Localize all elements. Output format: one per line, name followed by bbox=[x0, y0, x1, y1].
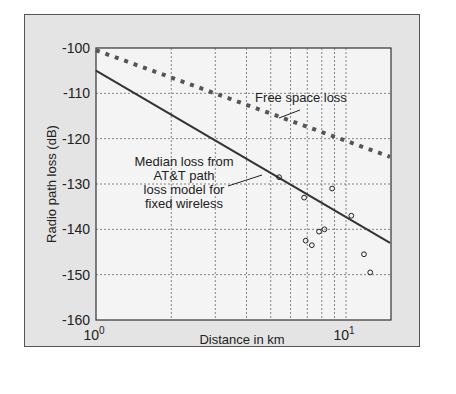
y-tick-label: -130 bbox=[62, 176, 90, 192]
y-tick-label: -100 bbox=[62, 40, 90, 56]
annotation-median-1: Median loss from bbox=[135, 154, 234, 169]
annotation-median-3: loss model for bbox=[144, 182, 226, 197]
annotation-median-2: AT&T path bbox=[154, 168, 215, 183]
y-tick-label: -150 bbox=[62, 267, 90, 283]
y-tick-label: -160 bbox=[62, 312, 90, 328]
chart: -100-110-120-130-140-150-160 100101 Dist… bbox=[0, 0, 456, 394]
annotation-median-4: fixed wireless bbox=[145, 196, 224, 211]
y-tick-label: -140 bbox=[62, 221, 90, 237]
y-tick-label: -110 bbox=[63, 85, 90, 101]
x-tick-label: 101 bbox=[333, 325, 355, 343]
annotation-free-space: Free space loss bbox=[255, 90, 347, 105]
y-tick-label: -120 bbox=[62, 131, 90, 147]
x-tick-label: 100 bbox=[83, 325, 105, 343]
x-axis-label: Distance in km bbox=[199, 332, 284, 347]
y-axis-label: Radio path loss (dB) bbox=[44, 125, 59, 243]
